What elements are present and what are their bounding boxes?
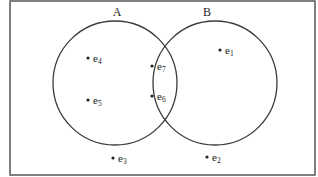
universe-rectangle [10, 1, 315, 175]
venn-diagram: AB e1e2e3e4e5e6e7 [0, 0, 318, 177]
element-dot-icon [205, 155, 208, 158]
element-dot-icon [111, 156, 114, 159]
element-dot-icon [150, 94, 153, 97]
element-dot-icon [86, 98, 89, 101]
element-dot-icon [150, 64, 153, 67]
set-a-label: A [113, 5, 122, 19]
set-b-label: B [203, 5, 211, 19]
element-dot-icon [86, 56, 89, 59]
element-dot-icon [218, 48, 221, 51]
